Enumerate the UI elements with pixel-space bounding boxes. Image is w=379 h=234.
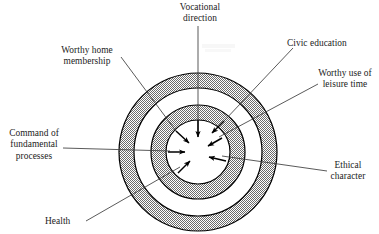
target-diagram: Vocational direction Worthy home members…: [0, 0, 379, 234]
diagram-canvas: [0, 0, 379, 234]
label-command-of-fundamental-processes: Command of fundamental processes: [2, 128, 66, 162]
label-vocational-direction: Vocational direction: [160, 2, 240, 25]
label-worthy-use-of-leisure-time: Worthy use of leisure time: [313, 68, 377, 91]
page-bleed-artifact: [202, 44, 235, 52]
label-health: Health: [45, 216, 87, 227]
label-worthy-home-membership: Worthy home membership: [48, 45, 126, 68]
label-ethical-character: Ethical character: [320, 160, 376, 183]
label-civic-education: Civic education: [287, 38, 373, 49]
